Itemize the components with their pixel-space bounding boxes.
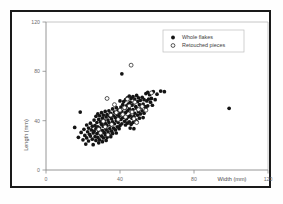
x-axis-title: Width (mm) [218,176,247,182]
data-point [85,123,89,127]
y-tick-label-120: 120 [31,19,40,25]
data-point [82,127,86,131]
data-point [153,98,157,102]
y-tick-label-0: 0 [37,167,40,173]
data-point [101,140,105,144]
data-point [111,107,115,111]
y-axis-ticks: 0 40 80 120 [31,19,46,173]
figure-container: 0 40 80 120 0 40 80 120 Width (mm) Lengt… [0,0,283,204]
data-point [92,118,96,122]
scatter-plot: 0 40 80 120 0 40 80 120 Width (mm) Lengt… [0,0,283,204]
data-point [125,97,129,101]
data-point [120,72,124,76]
data-point [101,119,105,123]
data-point [137,108,141,112]
data-point [91,143,95,147]
data-point [94,139,98,143]
data-point [84,142,88,146]
data-point [99,131,103,135]
data-point [90,137,94,141]
data-point [116,117,120,121]
data-point [95,121,99,125]
data-point [139,98,143,102]
y-axis-title: Length (mm) [23,119,29,151]
data-point [109,113,113,117]
data-point [129,63,133,67]
data-point [140,105,144,109]
data-point [73,126,77,130]
data-point [150,97,154,101]
data-point [132,127,136,131]
data-point [139,112,143,116]
data-point [79,131,83,135]
data-point [163,90,167,94]
data-point [120,122,124,126]
legend-marker-whole-flakes [171,36,175,40]
data-point [81,138,85,142]
data-point [124,115,128,119]
y-tick-label-80: 80 [34,68,40,74]
data-point [102,136,106,140]
y-tick-label-40: 40 [34,118,40,124]
data-point [85,136,89,140]
data-point [150,91,154,95]
data-point [131,121,135,125]
data-point [144,108,148,112]
legend-label-retouched-pieces: Retouched pieces [182,42,225,48]
x-tick-label-40: 40 [117,176,123,182]
series-whole-flakes [73,72,231,147]
x-tick-label-80: 80 [191,176,197,182]
data-point [159,89,163,93]
data-point [114,111,118,115]
data-point [151,103,155,107]
data-point [78,110,82,114]
data-point [98,114,102,118]
data-point [138,116,142,120]
data-point [103,110,107,114]
data-point [89,134,93,138]
data-point [133,100,137,104]
data-point [77,135,81,139]
data-point [105,97,109,101]
data-point [227,106,231,110]
data-point [110,122,114,126]
x-tick-label-120: 120 [264,176,273,182]
data-point [127,104,131,108]
data-point [128,100,132,104]
data-point [114,131,118,135]
data-point [135,121,139,125]
data-point [128,126,132,130]
data-point [155,92,159,96]
data-point [141,116,145,120]
x-tick-label-0: 0 [45,176,48,182]
legend: Whole flakes Retouched pieces [163,30,244,52]
legend-label-whole-flakes: Whole flakes [182,34,213,40]
data-point [97,127,101,131]
data-point [113,103,117,107]
data-point [111,132,115,136]
data-point [130,110,134,114]
legend-box [163,30,244,52]
data-point [103,125,107,129]
data-point [149,100,153,104]
legend-marker-retouched-pieces [171,44,175,48]
data-point [89,121,93,125]
data-point [118,99,122,103]
data-point [87,139,91,143]
data-points-group [73,63,231,146]
data-point [146,104,150,108]
data-point [123,106,127,110]
data-point [118,108,122,112]
data-point [106,133,110,137]
data-point [132,117,136,121]
